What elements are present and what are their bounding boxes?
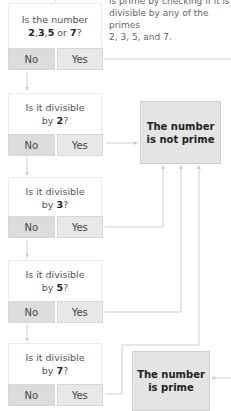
question-text: Is it divisible [9,351,101,364]
note-line: divisible by any of the primes [109,7,231,31]
result-text: is prime [137,381,205,394]
result-text: is not prime [147,133,215,146]
question-text: Is the number [9,13,101,26]
by: by [42,199,57,210]
result-text: The number [147,120,215,133]
answer-row-5: No Yes [8,384,103,406]
question-by: by 2? [9,114,101,127]
sep: ? [77,27,82,38]
yes-button[interactable]: Yes [57,48,104,70]
q-mark: ? [63,282,68,293]
sep: or [54,27,70,38]
question-numbers: 2,3,5 or 7? [9,26,101,39]
no-button[interactable]: No [8,301,55,323]
question-text: Is it divisible [9,101,101,114]
yes-button[interactable]: Yes [57,134,104,156]
question-by: by 3? [9,198,101,211]
result-prime: The number is prime [132,351,210,411]
question-by: by 7? [9,364,101,377]
num: 2 [28,27,35,38]
q-mark: ? [63,365,68,376]
no-button[interactable]: No [8,384,55,406]
question-text: Is it divisible [9,185,101,198]
answer-row-1: No Yes [8,48,103,70]
yes-button[interactable]: Yes [57,384,104,406]
num: 7 [70,27,77,38]
no-button[interactable]: No [8,134,55,156]
by: by [42,282,57,293]
note-line: 2, 3, 5, and 7. [109,31,231,43]
question-text: Is it divisible [9,268,101,281]
yes-button[interactable]: Yes [57,216,104,238]
question-box-5: Is it divisible by 7? [8,343,102,384]
question-box-2: Is it divisible by 2? [8,93,102,134]
question-box-3: Is it divisible by 3? [8,177,102,218]
question-box-1: Is the number 2,3,5 or 7? [8,3,102,48]
no-button[interactable]: No [8,216,55,238]
by: by [42,365,57,376]
no-button[interactable]: No [8,48,55,70]
by: by [42,115,57,126]
yes-button[interactable]: Yes [57,301,104,323]
answer-row-4: No Yes [8,301,103,323]
question-box-4: Is it divisible by 5? [8,260,102,301]
intro-note: is prime by checking if it is divisible … [109,0,231,43]
q-mark: ? [63,199,68,210]
result-not-prime: The number is not prime [140,101,221,164]
question-by: by 5? [9,281,101,294]
answer-row-3: No Yes [8,216,103,238]
result-text: The number [137,368,205,381]
num: 3 [38,27,45,38]
answer-row-2: No Yes [8,134,103,156]
q-mark: ? [63,115,68,126]
note-line: is prime by checking if it is [109,0,231,7]
